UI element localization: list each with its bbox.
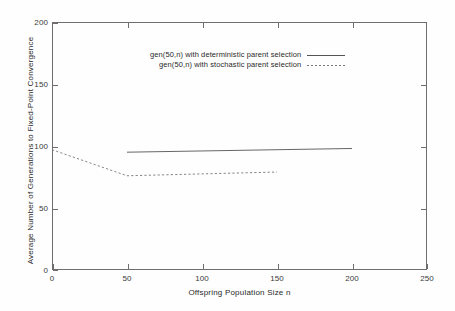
xtick-label: 0: [50, 274, 55, 283]
ytick-mark: [53, 270, 58, 271]
legend-label: gen(50,n) with deterministic parent sele…: [150, 50, 307, 60]
legend-item-deterministic: gen(50,n) with deterministic parent sele…: [150, 50, 345, 60]
legend-item-stochastic: gen(50,n) with stochastic parent selecti…: [150, 60, 345, 70]
ytick-label: 50: [39, 204, 48, 213]
chart-figure: 0 50 100 150 200 250 200 150 100 50 0 Of…: [0, 0, 455, 311]
xtick-mark: [427, 264, 428, 269]
xtick-label: 100: [195, 274, 209, 283]
xtick-label: 50: [122, 274, 131, 283]
legend-line-sample-solid: [307, 52, 345, 58]
ytick-label: 100: [34, 142, 48, 151]
xtick-label: 150: [270, 274, 284, 283]
legend-line-sample-dashed: [307, 62, 345, 68]
xtick-label: 250: [420, 274, 434, 283]
y-axis-title: Average Number of Generations to Fixed-P…: [26, 27, 35, 275]
line-deterministic: [127, 148, 352, 152]
ytick-label: 0: [43, 266, 48, 275]
chart-legend: gen(50,n) with deterministic parent sele…: [150, 50, 345, 70]
ytick-label: 200: [34, 18, 48, 27]
xtick-label: 200: [345, 274, 359, 283]
x-axis-title: Offspring Population Size n: [52, 288, 427, 297]
line-stochastic: [52, 150, 277, 176]
ytick-label: 150: [34, 80, 48, 89]
legend-label: gen(50,n) with stochastic parent selecti…: [159, 60, 307, 70]
